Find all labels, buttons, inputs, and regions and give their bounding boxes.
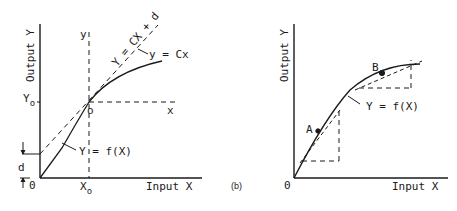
y-axis-label: Output Y bbox=[24, 29, 37, 82]
offset-d-label: d bbox=[18, 161, 25, 174]
d-arrowhead-top bbox=[21, 150, 25, 154]
tangent-b bbox=[355, 61, 422, 90]
local-y-label: y bbox=[80, 28, 87, 41]
point-b bbox=[379, 70, 384, 75]
point-b-label: B bbox=[372, 61, 379, 74]
local-origin-label: o bbox=[87, 104, 94, 117]
x-axis-label: Input X bbox=[392, 180, 439, 193]
y0-label: Yo bbox=[23, 92, 35, 108]
origin-label: 0 bbox=[29, 179, 36, 192]
leader-curve bbox=[62, 143, 76, 150]
figure: Output Y Input X y x o Y = CX + d y = Cx… bbox=[0, 0, 457, 211]
origin-label: 0 bbox=[284, 179, 291, 192]
leader-curve bbox=[348, 96, 360, 104]
panel-label-b: (b) bbox=[231, 181, 242, 191]
x0-label: Xo bbox=[80, 180, 92, 196]
curve-label: Y = f(X) bbox=[366, 100, 419, 113]
diagram-b-labels: Output Y Input X 0 A B Y = f(X) (b) bbox=[231, 29, 439, 193]
diagram-a-labels: Output Y Input X y x o Y = CX + d y = Cx… bbox=[18, 10, 193, 196]
local-line-label: y = Cx bbox=[149, 48, 189, 61]
curve-label: Y = f(X) bbox=[79, 145, 132, 158]
curve-f bbox=[40, 61, 162, 178]
leader-local-line bbox=[138, 49, 148, 54]
point-a bbox=[316, 129, 320, 133]
tangent-a bbox=[300, 110, 340, 163]
d-arrowhead-bottom bbox=[21, 178, 25, 182]
local-x-label: x bbox=[167, 104, 174, 117]
x-axis-label: Input X bbox=[146, 180, 193, 193]
point-a-label: A bbox=[306, 123, 313, 136]
y-axis-label: Output Y bbox=[278, 29, 291, 82]
tangent-line bbox=[40, 25, 158, 154]
